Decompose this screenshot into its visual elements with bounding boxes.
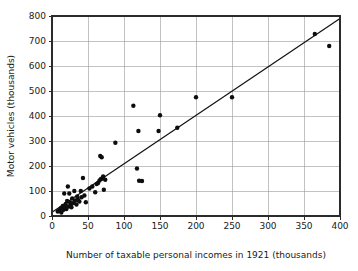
chart-canvas: 050100150200250300350400 010020030040050…: [0, 0, 358, 271]
x-tick-label: 50: [82, 221, 94, 231]
data-point: [90, 184, 94, 188]
data-point: [77, 199, 81, 203]
data-point: [79, 189, 83, 193]
data-point: [175, 126, 179, 130]
data-point: [136, 129, 140, 133]
data-point: [72, 189, 76, 193]
data-point: [99, 155, 103, 159]
x-tick-label: 300: [259, 221, 276, 231]
data-point: [103, 178, 107, 182]
data-point: [158, 113, 162, 117]
data-point: [313, 32, 317, 36]
y-tick-labels: 0100200300400500600700800: [29, 11, 46, 221]
data-point: [194, 95, 198, 99]
y-tick-label: 700: [29, 36, 46, 46]
data-point: [131, 104, 135, 108]
data-point: [69, 205, 73, 209]
x-axis-title: Number of taxable personal incomes in 19…: [66, 250, 326, 260]
y-tick-label: 500: [29, 86, 46, 96]
x-tick-label: 150: [151, 221, 168, 231]
y-tick-label: 0: [40, 211, 46, 221]
x-tick-label: 200: [187, 221, 204, 231]
y-tick-label: 600: [29, 61, 46, 71]
data-point: [113, 141, 117, 145]
data-point: [327, 44, 331, 48]
y-tick-label: 800: [29, 11, 46, 21]
data-point: [135, 166, 139, 170]
data-point: [230, 95, 234, 99]
data-point: [66, 184, 70, 188]
x-tick-label: 350: [295, 221, 312, 231]
x-tick-label: 100: [115, 221, 132, 231]
y-tick-label: 200: [29, 161, 46, 171]
data-point: [67, 191, 71, 195]
y-tick-label: 300: [29, 136, 46, 146]
y-tick-label: 100: [29, 186, 46, 196]
data-points: [56, 32, 332, 215]
tick-marks: [49, 16, 341, 220]
x-tick-label: 400: [331, 221, 348, 231]
data-point: [93, 190, 97, 194]
y-tick-label: 400: [29, 111, 46, 121]
x-tick-labels: 050100150200250300350400: [49, 221, 349, 231]
data-point: [84, 200, 88, 204]
data-point: [140, 179, 144, 183]
data-point: [62, 191, 66, 195]
data-point: [82, 193, 86, 197]
y-axis-title: Motor vehicles (thousands): [6, 55, 16, 177]
data-point: [102, 188, 106, 192]
data-point: [156, 129, 160, 133]
x-tick-label: 250: [223, 221, 240, 231]
data-point: [81, 176, 85, 180]
x-tick-label: 0: [49, 221, 55, 231]
scatter-plot-figure: 050100150200250300350400 010020030040050…: [0, 0, 358, 271]
